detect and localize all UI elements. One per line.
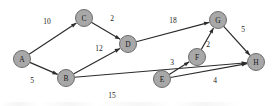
edge-weight-f-g: 2 — [206, 40, 210, 49]
node-h[interactable]: H — [248, 54, 265, 71]
node-c-label: C — [81, 14, 86, 23]
arrowhead-c-d-icon — [115, 35, 121, 39]
arrowhead-f-g-icon — [209, 28, 213, 34]
edge-g-h — [224, 26, 250, 55]
edge-weight-b-d: 12 — [95, 44, 103, 53]
node-b-label: B — [63, 74, 68, 83]
edge-weight-e-f: 3 — [170, 58, 174, 67]
node-f[interactable]: F — [189, 49, 206, 66]
node-e-label: E — [160, 75, 165, 84]
node-a[interactable]: A — [14, 51, 31, 68]
edge-weight-c-d: 2 — [110, 14, 114, 23]
graph-figure: ABCDEFGH 10521215183425 — [0, 0, 276, 106]
arrowhead-a-b-icon — [52, 70, 58, 74]
edge-weight-a-b: 5 — [30, 76, 34, 85]
node-g-label: G — [215, 16, 221, 25]
node-d-label: D — [125, 40, 131, 49]
edges-layer — [29, 22, 250, 77]
arrowhead-b-d-icon — [115, 48, 121, 52]
node-b[interactable]: B — [58, 70, 75, 87]
node-g[interactable]: G — [210, 12, 227, 29]
node-c[interactable]: C — [76, 10, 93, 27]
edge-weight-b-h: 15 — [108, 91, 116, 100]
edge-a-c — [29, 23, 76, 54]
node-d[interactable]: D — [120, 36, 137, 53]
arrowheads-layer — [52, 22, 250, 75]
arrowhead-a-c-icon — [71, 23, 76, 28]
graph-canvas: ABCDEFGH 10521215183425 — [0, 0, 276, 106]
node-a-label: A — [19, 55, 25, 64]
arrowhead-d-g-icon — [204, 22, 210, 26]
nodes-layer: ABCDEFGH — [14, 10, 265, 88]
node-h-label: H — [253, 58, 259, 67]
node-f-label: F — [195, 53, 199, 62]
edge-weight-d-g: 18 — [169, 16, 177, 25]
edge-weight-a-c: 10 — [43, 17, 51, 26]
edge-weight-e-h: 4 — [213, 76, 217, 85]
arrowhead-e-f-icon — [184, 62, 189, 66]
node-e[interactable]: E — [154, 71, 171, 88]
edge-d-g — [136, 22, 209, 41]
edge-weight-g-h: 5 — [241, 25, 245, 34]
